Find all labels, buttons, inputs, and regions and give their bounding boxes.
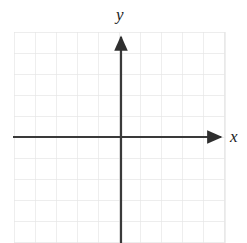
y-axis-label: y (116, 6, 124, 23)
coordinate-plane-svg (0, 0, 247, 243)
x-axis-label: x (230, 128, 238, 145)
coordinate-grid-figure: y x (0, 0, 247, 243)
